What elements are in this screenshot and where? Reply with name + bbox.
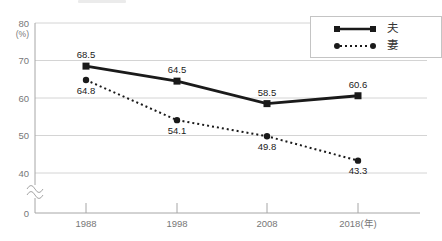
data-point-marker — [83, 77, 89, 83]
data-point-marker — [174, 117, 180, 123]
data-point-label: 68.5 — [77, 49, 96, 60]
legend-row-wife: 妻 — [332, 39, 441, 53]
legend-label-husband: 夫 — [387, 23, 398, 35]
data-point-marker — [264, 100, 271, 107]
y-tick-label: 50 — [18, 130, 29, 141]
data-point-marker — [174, 78, 181, 85]
axis-break-icon — [27, 192, 43, 199]
y-tick-label: 80 — [18, 18, 29, 29]
y-tick-label: 60 — [18, 93, 29, 104]
data-point-label: 64.5 — [168, 64, 187, 75]
data-point-label: 64.8 — [77, 85, 96, 96]
data-point-marker — [264, 133, 270, 139]
y-axis-unit-label: (%) — [16, 29, 29, 39]
legend-row-husband: 夫 — [332, 22, 441, 36]
data-point-label: 54.1 — [168, 125, 187, 136]
solid-line-square-marker-icon — [332, 24, 378, 34]
x-tick-label: 2008 — [256, 218, 277, 229]
legend-label-wife: 妻 — [387, 40, 398, 52]
y-zero-label: 0 — [24, 208, 29, 219]
data-point-label: 49.8 — [258, 141, 277, 152]
chart-legend: 夫 妻 — [310, 16, 442, 58]
dotted-line-circle-marker-icon — [332, 41, 378, 51]
y-tick-label: 70 — [18, 55, 29, 66]
x-tick-label: 1998 — [166, 218, 187, 229]
data-point-label: 58.5 — [258, 87, 277, 98]
data-point-label: 60.6 — [349, 79, 368, 90]
data-point-marker — [355, 157, 361, 163]
x-tick-label: 1988 — [75, 218, 96, 229]
axis-break-icon — [27, 186, 43, 193]
data-point-label: 43.3 — [349, 165, 368, 176]
data-point-marker — [83, 63, 90, 70]
y-tick-label: 40 — [18, 168, 29, 179]
x-tick-label: 2018(年) — [339, 218, 376, 229]
data-point-marker — [355, 92, 362, 99]
